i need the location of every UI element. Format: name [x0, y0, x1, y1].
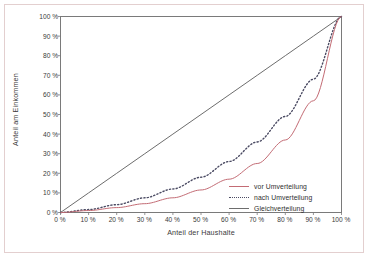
legend-label: vor Umverteilung — [254, 183, 307, 190]
plot-area — [0, 0, 370, 259]
solid-dark-line-icon — [228, 204, 250, 213]
chart-page: Anteil am Einkommen Anteil der Haushalte… — [0, 0, 370, 259]
solid-red-line-icon — [228, 182, 250, 191]
legend-label: Gleichverteilung — [254, 205, 304, 212]
legend-item-gleichverteilung[interactable]: Gleichverteilung — [228, 203, 334, 214]
legend-item-nach-umverteilung[interactable]: nach Umverteilung — [228, 192, 334, 203]
chart-legend: vor Umverteilung nach Umverteilung Gleic… — [228, 181, 334, 214]
lorenz-curve-chart: Anteil am Einkommen Anteil der Haushalte… — [0, 0, 370, 259]
legend-label: nach Umverteilung — [254, 194, 312, 201]
dotted-line-icon — [228, 193, 250, 202]
legend-item-vor-umverteilung[interactable]: vor Umverteilung — [228, 181, 334, 192]
